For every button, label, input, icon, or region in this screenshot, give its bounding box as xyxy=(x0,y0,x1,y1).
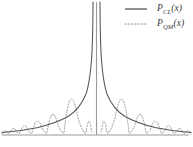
legend-label-pqm: PQM(x) xyxy=(157,18,184,30)
legend-entry-pqm: PQM(x) xyxy=(124,16,193,31)
legend: PCL(x) PQM(x) xyxy=(124,1,193,31)
legend-line-sample-dotted xyxy=(124,19,148,29)
legend-label-pcl: PCL(x) xyxy=(157,3,182,15)
legend-line-sample-solid xyxy=(124,4,148,14)
figure: PCL(x) PQM(x) xyxy=(0,0,193,147)
legend-entry-pcl: PCL(x) xyxy=(124,1,193,16)
